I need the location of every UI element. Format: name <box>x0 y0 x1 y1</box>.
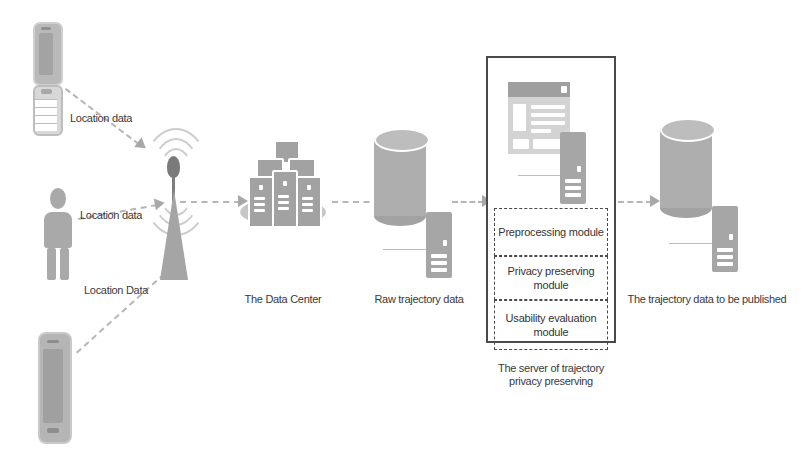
data-center-rack <box>272 170 298 228</box>
server-slot <box>565 193 581 197</box>
window-button <box>513 139 529 149</box>
label-published-trajectory-data: The trajectory data to be published <box>617 293 797 306</box>
rack-led <box>259 185 263 190</box>
server-led <box>577 166 581 172</box>
data-center-rack <box>248 176 274 228</box>
label-data-center: The Data Center <box>233 293 333 306</box>
edge-server-to-published <box>618 201 652 203</box>
rack-slot <box>302 197 313 200</box>
server-slot <box>717 255 733 259</box>
server-slot <box>431 261 447 265</box>
server-led <box>443 240 447 246</box>
raw-connector-line <box>383 249 427 250</box>
published-trajectory-server-rack-icon <box>712 206 738 272</box>
source-mobile-phone-icon <box>30 22 64 132</box>
label-server-caption: The server of trajectory privacy preserv… <box>478 362 624 388</box>
rack-led <box>283 181 287 186</box>
tower-antenna-bulb <box>167 156 180 178</box>
phone-dpad <box>41 89 52 94</box>
window-text-line <box>531 113 565 117</box>
rack-slot <box>254 197 265 200</box>
caption-line-1: The server of trajectory <box>498 362 604 374</box>
trajectory-privacy-server-box: Preprocessing module Privacy preserving … <box>486 56 616 343</box>
module-label: Preprocessing module <box>498 225 603 239</box>
edge-label-location-data-1: Location data <box>70 112 132 125</box>
person-head <box>50 188 66 209</box>
server-slot <box>565 186 581 190</box>
server-connector-line <box>518 175 562 176</box>
source-smartphone-icon <box>36 332 72 440</box>
edge-tower-to-datacenter <box>180 201 240 203</box>
published-connector-line <box>669 243 713 244</box>
source-person-icon <box>36 188 80 280</box>
cell-tower-icon <box>128 128 224 280</box>
tower-mast <box>160 190 188 280</box>
cylinder-top <box>374 128 430 152</box>
server-slot <box>565 179 581 183</box>
edge-arrowhead <box>650 195 660 207</box>
person-leg-right <box>60 248 69 280</box>
caption-line-2: privacy preserving <box>509 375 593 387</box>
server-slot <box>717 248 733 252</box>
server-led <box>729 234 733 240</box>
rack-slot <box>254 209 265 212</box>
rack-slot <box>302 209 313 212</box>
close-icon <box>561 86 567 93</box>
edge-raw-to-server <box>452 201 484 203</box>
edge-datacenter-to-raw <box>332 201 380 203</box>
phone-speaker <box>41 27 51 30</box>
rack-led <box>307 185 311 190</box>
module-label: Privacy preserving module <box>495 264 607 292</box>
edge-label-location-data-3: Location Data <box>84 284 148 297</box>
data-center-icon <box>238 140 328 232</box>
server-slot <box>431 254 447 258</box>
data-center-rack <box>296 176 322 228</box>
rack-slot <box>278 201 289 204</box>
rack-slot <box>302 203 313 206</box>
published-trajectory-database-icon <box>660 118 712 230</box>
person-torso <box>44 212 72 248</box>
window-sidebar-panel <box>513 104 526 131</box>
phone-screen <box>39 33 53 75</box>
smartphone-earpiece <box>47 340 59 343</box>
rack-slot <box>278 207 289 210</box>
window-text-line <box>531 121 565 125</box>
module-usability-evaluation[interactable]: Usability evaluation module <box>494 300 608 350</box>
phone-key-row <box>35 123 57 131</box>
module-label: Usability evaluation module <box>495 311 607 339</box>
raw-trajectory-server-rack-icon <box>426 212 452 278</box>
server-rack-icon <box>560 132 586 204</box>
person-leg-left <box>47 248 56 280</box>
window-text-line <box>531 105 565 109</box>
module-privacy-preserving[interactable]: Privacy preserving module <box>494 256 608 300</box>
raw-trajectory-database-icon <box>374 128 426 238</box>
label-raw-trajectory-data: Raw trajectory data <box>359 293 479 306</box>
server-slot <box>431 268 447 272</box>
server-slot <box>717 262 733 266</box>
window-text-line <box>531 129 551 133</box>
diagram-canvas: Location data Location data Location Dat… <box>0 0 808 451</box>
smartphone-home-button <box>47 428 59 433</box>
module-preprocessing[interactable]: Preprocessing module <box>494 208 608 256</box>
rack-slot <box>254 203 265 206</box>
cylinder-top <box>660 118 716 142</box>
rack-slot <box>278 195 289 198</box>
smartphone-screen <box>43 349 63 423</box>
